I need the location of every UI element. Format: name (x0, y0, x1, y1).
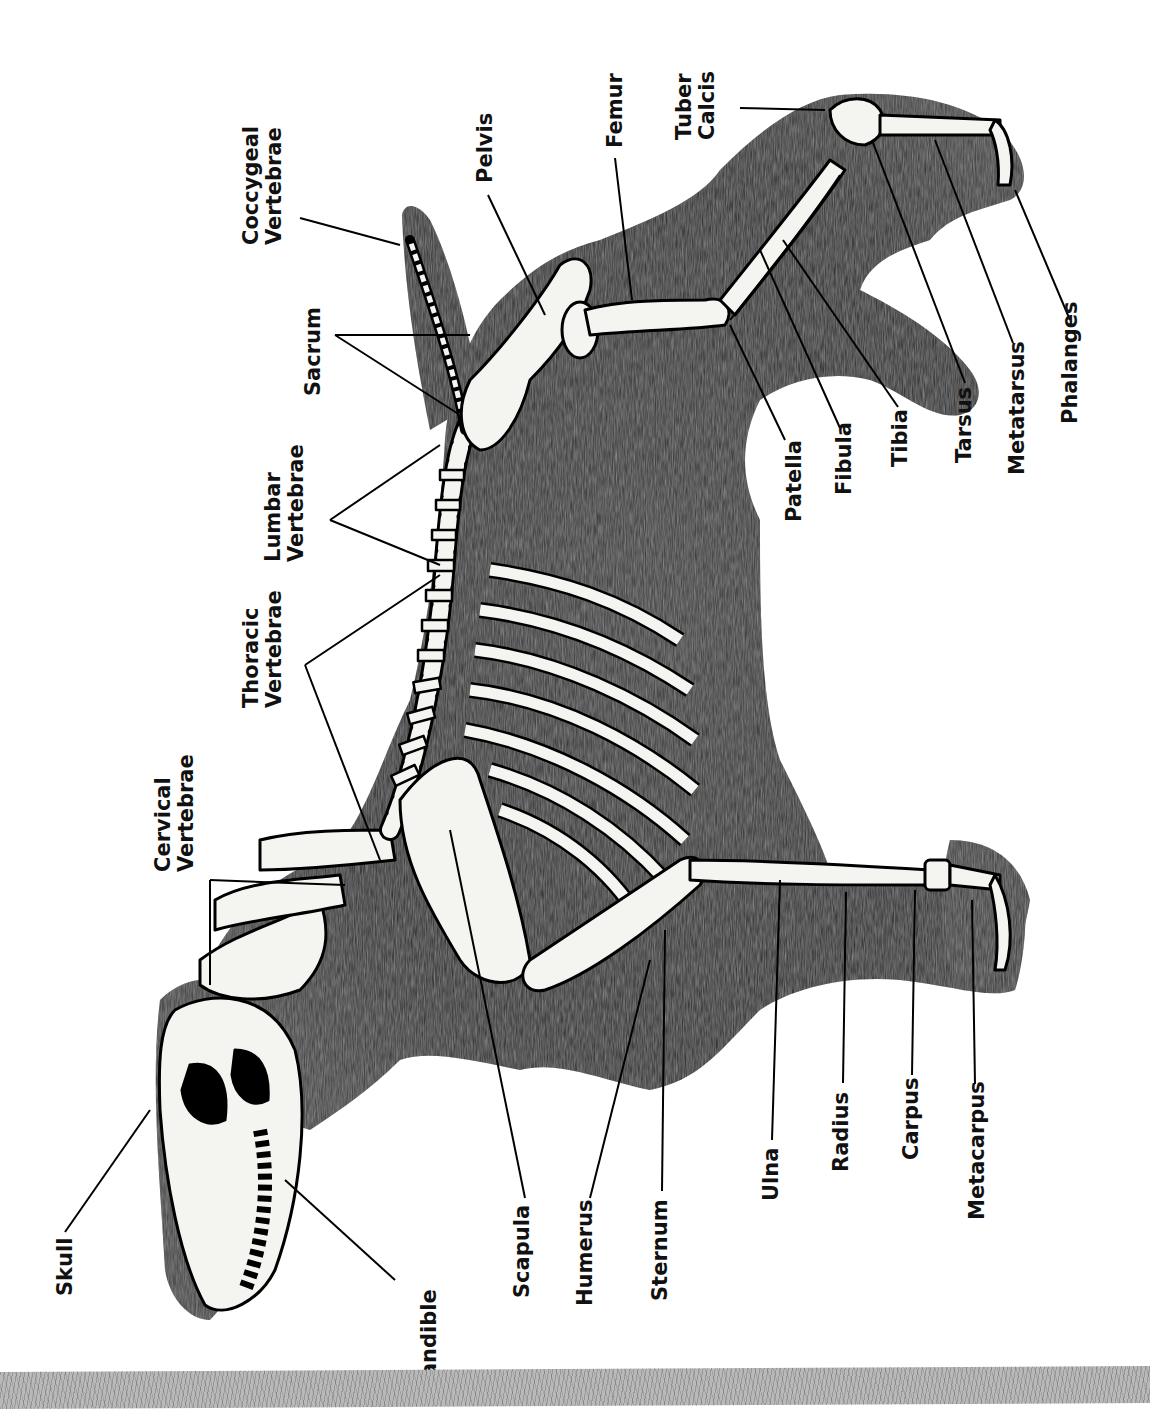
label-scapula: Scapula (511, 1205, 534, 1298)
label-radius: Radius (830, 1092, 853, 1172)
label-tuber-calcis: Tuber Calcis (673, 71, 719, 140)
label-patella: Patella (783, 440, 806, 522)
textured-footer-band (0, 1366, 1150, 1409)
label-thoracic-vertebrae: Thoracic Vertebrae (240, 590, 286, 708)
label-pelvis: Pelvis (474, 113, 497, 183)
label-cervical-vertebrae: Cervical Vertebrae (152, 754, 198, 872)
label-skull: Skull (54, 1238, 77, 1296)
label-phalanges: Phalanges (1059, 301, 1082, 424)
label-metacarpus: Metacarpus (966, 1081, 989, 1220)
label-sternum: Sternum (649, 1199, 672, 1301)
label-sacrum: Sacrum (302, 307, 325, 396)
label-humerus: Humerus (574, 1200, 597, 1306)
label-carpus: Carpus (900, 1078, 923, 1160)
label-lumbar-vertebrae: Lumbar Vertebrae (262, 444, 308, 562)
label-coccygeal-vertebrae: Coccygeal Vertebrae (240, 126, 286, 245)
label-tarsus: Tarsus (953, 387, 976, 463)
dog-skeleton-diagram: Skull Mandible Cervical Vertebrae Thorac… (0, 0, 1150, 1409)
label-tibia: Tibia (889, 409, 912, 467)
label-femur: Femur (604, 73, 627, 148)
label-fibula: Fibula (833, 422, 856, 495)
label-ulna: Ulna (760, 1148, 783, 1201)
label-metatarsus: Metatarsus (1006, 341, 1029, 475)
